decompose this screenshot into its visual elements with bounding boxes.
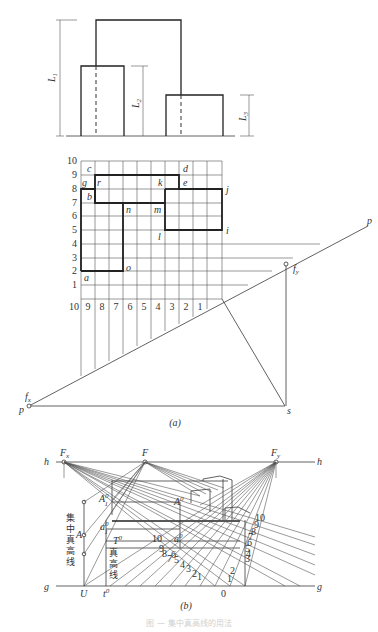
svg-text:b: b — [87, 191, 92, 202]
svg-text:中: 中 — [66, 523, 75, 534]
svg-text:5: 5 — [72, 224, 77, 235]
plan-grid: 1 2 3 4 5 6 7 8 9 10 10 9 8 7 6 5 4 3 2 … — [67, 155, 320, 376]
Fx-label: Fx — [59, 447, 70, 460]
right-block-outline — [166, 95, 223, 136]
svg-text:1: 1 — [197, 571, 202, 582]
picture-plane-line-p — [29, 226, 368, 406]
dim-L2-label: L2 — [130, 98, 143, 109]
svg-text:e: e — [183, 177, 188, 188]
svg-text:9: 9 — [72, 169, 77, 180]
svg-text:真: 真 — [109, 547, 118, 558]
Fy-label: Fy — [270, 447, 281, 460]
left-block-outline — [81, 66, 124, 136]
elevation-view: L1 L2 L3 — [46, 20, 254, 136]
perspective-diagram: L1 L2 L3 — [0, 0, 378, 632]
concentrated-true-height-label: 集 中 真 高 线 — [66, 512, 75, 567]
svg-text:高: 高 — [66, 545, 75, 556]
svg-text:5: 5 — [142, 301, 147, 312]
svg-text:o: o — [126, 262, 131, 273]
svg-text:1: 1 — [198, 301, 203, 312]
T0-label: T0 — [113, 534, 123, 546]
svg-text:d: d — [183, 163, 189, 174]
caption-b: (b) — [180, 600, 192, 612]
fy-point — [284, 262, 288, 266]
a1-0-label: a01 — [100, 520, 109, 536]
tall-block-outline — [96, 20, 181, 95]
svg-text:7: 7 — [114, 301, 119, 312]
svg-text:3: 3 — [170, 301, 175, 312]
svg-text:4: 4 — [180, 559, 185, 570]
dim-L3-label: L3 — [237, 111, 250, 122]
true-height-label: 真 高 线 — [109, 547, 118, 580]
svg-text:i: i — [226, 225, 229, 236]
svg-text:线: 线 — [66, 556, 75, 567]
svg-text:8: 8 — [72, 183, 77, 194]
svg-text:5: 5 — [174, 554, 179, 565]
h-label-right: h — [317, 456, 322, 467]
g-label-right: g — [317, 581, 322, 592]
svg-text:j: j — [224, 184, 229, 195]
F-label: F — [141, 447, 149, 458]
caption-a: (a) — [169, 417, 181, 429]
p-label-left: p — [18, 404, 24, 415]
s-label: s — [287, 405, 291, 416]
svg-text:6: 6 — [128, 301, 133, 312]
svg-text:高: 高 — [109, 558, 118, 569]
origin-zero-label: 0 — [221, 588, 226, 599]
row-labels: 1 2 3 4 5 6 7 8 9 10 — [67, 155, 77, 290]
t0-label: t0 — [103, 587, 110, 599]
svg-text:m: m — [154, 204, 161, 215]
svg-text:3: 3 — [72, 252, 77, 263]
sight-line-to-s — [222, 299, 285, 406]
fx-label: fx — [25, 391, 32, 404]
svg-text:7: 7 — [72, 197, 77, 208]
figure-caption: 图 — 集中真高线的用法 — [146, 618, 231, 628]
h-label-left: h — [44, 456, 49, 467]
svg-text:4: 4 — [72, 238, 77, 249]
svg-text:1: 1 — [227, 573, 232, 584]
dim-L1-label: L1 — [46, 73, 59, 83]
svg-text:线: 线 — [109, 569, 118, 580]
svg-text:k: k — [158, 177, 163, 188]
right-block-perspective — [225, 507, 250, 520]
A-label: A — [75, 529, 83, 540]
fx-point — [27, 404, 31, 408]
svg-text:10: 10 — [67, 155, 77, 166]
p-label-right: p — [366, 215, 372, 226]
svg-text:a: a — [84, 272, 89, 283]
fy-label: fy — [293, 263, 300, 276]
svg-text:真: 真 — [66, 534, 75, 545]
svg-text:1: 1 — [72, 279, 77, 290]
svg-text:4: 4 — [156, 301, 161, 312]
svg-text:8: 8 — [100, 301, 105, 312]
svg-text:集: 集 — [66, 512, 75, 523]
svg-text:3: 3 — [186, 563, 191, 574]
svg-text:l: l — [158, 231, 161, 242]
perspective-view: h h g g Fx F Fy A U 集 中 真 高 线 t — [44, 447, 322, 612]
svg-text:6: 6 — [72, 210, 77, 221]
svg-text:n: n — [126, 204, 131, 215]
g-label-left: g — [44, 581, 49, 592]
svg-text:9: 9 — [86, 301, 91, 312]
U-label: U — [80, 588, 88, 599]
svg-text:c: c — [87, 163, 92, 174]
svg-text:2: 2 — [72, 265, 77, 276]
svg-text:3: 3 — [245, 553, 250, 564]
svg-text:g: g — [82, 177, 87, 188]
svg-text:10: 10 — [69, 301, 79, 312]
svg-text:2: 2 — [184, 301, 189, 312]
svg-text:r: r — [97, 177, 101, 188]
column-labels: 10 9 8 7 6 5 4 3 2 1 — [69, 301, 203, 312]
